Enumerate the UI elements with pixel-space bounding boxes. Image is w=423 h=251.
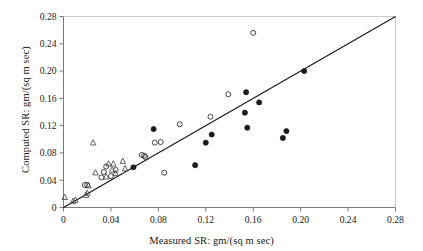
data-point-open-circle [99, 175, 104, 180]
data-point-filled-circle [193, 163, 198, 168]
data-point-open-triangle [120, 158, 125, 163]
x-tick-label: 0.24 [340, 214, 357, 225]
x-tick-label: 0.28 [387, 214, 404, 225]
data-point-open-circle [108, 174, 113, 179]
data-point-filled-circle [284, 129, 289, 134]
y-axis-title: Computed SR: gm/(sq m sec) [20, 15, 31, 205]
data-point-open-circle [208, 114, 213, 119]
data-point-open-circle [177, 122, 182, 127]
y-tick-label: 0.28 [40, 11, 57, 22]
y-tick-label: 0.16 [40, 93, 57, 104]
plot-area: 00.040.080.120.160.200.240.2800.040.080.… [0, 0, 423, 251]
data-point-filled-circle [209, 132, 214, 137]
y-tick-label: 0 [52, 202, 57, 213]
data-point-open-circle [158, 140, 163, 145]
data-point-filled-circle [242, 110, 247, 115]
series-filled-circle [131, 68, 307, 169]
data-point-open-circle [162, 170, 167, 175]
data-point-open-triangle [90, 140, 95, 145]
series-open-circle [82, 30, 255, 187]
data-point-filled-circle [203, 140, 208, 145]
data-point-open-triangle [93, 170, 98, 175]
data-point-filled-circle [257, 100, 262, 105]
x-tick-label: 0.20 [292, 214, 309, 225]
scatter-chart-figure: 00.040.080.120.160.200.240.2800.040.080.… [0, 0, 423, 251]
data-point-filled-circle [244, 90, 249, 95]
data-point-open-circle [152, 140, 157, 145]
data-point-open-circle [101, 170, 106, 175]
one-to-one-reference-line [64, 17, 396, 208]
data-point-filled-circle [302, 68, 307, 73]
x-tick-label: 0.12 [197, 214, 214, 225]
x-tick-label: 0.16 [245, 214, 262, 225]
data-point-filled-circle [151, 126, 156, 131]
data-point-open-triangle [62, 194, 67, 199]
y-tick-label: 0.12 [40, 120, 57, 131]
x-axis-title: Measured SR: gm/(sq m sec) [0, 235, 423, 246]
y-tick-label: 0.20 [40, 65, 57, 76]
data-point-filled-circle [280, 135, 285, 140]
data-point-open-circle [251, 30, 256, 35]
data-point-open-circle [226, 92, 231, 97]
y-tick-label: 0.08 [40, 147, 57, 158]
data-point-open-triangle [122, 166, 127, 171]
x-tick-label: 0 [61, 214, 66, 225]
y-tick-label: 0.24 [40, 38, 57, 49]
x-tick-label: 0.08 [150, 214, 167, 225]
y-tick-label: 0.04 [40, 175, 57, 186]
x-tick-label: 0.04 [103, 214, 120, 225]
data-point-filled-circle [245, 125, 250, 130]
data-point-open-triangle [111, 161, 116, 166]
data-point-filled-circle [131, 165, 136, 170]
